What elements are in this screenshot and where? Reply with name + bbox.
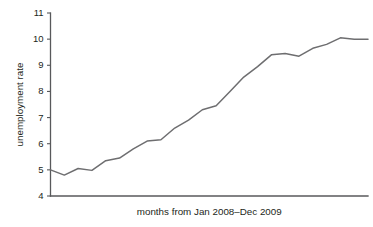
y-axis-tick-label: 4 <box>38 190 43 201</box>
y-axis-title: unemployment rate <box>14 62 25 146</box>
y-axis-tick-label: 7 <box>38 112 43 123</box>
y-axis-tick-label: 5 <box>38 164 43 175</box>
chart-plot-area: 4567891011 months from Jan 2008–Dec 2009… <box>0 0 373 227</box>
y-axis-tick-label: 8 <box>38 85 43 96</box>
unemployment-rate-chart: 4567891011 months from Jan 2008–Dec 2009… <box>0 0 373 227</box>
y-axis-tick-label: 9 <box>38 59 43 70</box>
y-axis-tick-label: 6 <box>38 138 43 149</box>
y-axis-tick-label: 10 <box>33 33 44 44</box>
y-axis-tick-label: 11 <box>34 7 44 18</box>
y-axis-tick-labels: 4567891011 <box>33 7 44 201</box>
unemployment-rate-line <box>51 38 369 175</box>
x-axis-title: months from Jan 2008–Dec 2009 <box>137 206 282 217</box>
